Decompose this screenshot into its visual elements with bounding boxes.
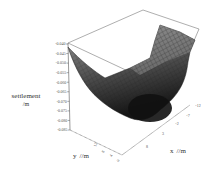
z-tick-label: -0.040: [55, 41, 65, 46]
y-tick-label: 8: [100, 150, 105, 154]
y-tick-label: 4: [108, 154, 113, 158]
y-axis-title: y//m: [73, 152, 89, 160]
z-axis-title: settlement /m: [2, 92, 50, 108]
z-axis-unit: /m: [2, 100, 50, 108]
x-tick-label: 3: [162, 131, 164, 136]
y-tick-label: 0: [115, 159, 120, 163]
z-tick-label: -0.055: [56, 70, 66, 75]
z-tick-label: -0.085: [57, 127, 67, 132]
surface-plot: -0.040-0.045-0.050-0.055-0.060-0.065-0.0…: [0, 0, 219, 170]
z-tick-label: -0.075: [57, 108, 67, 113]
x-tick-label: -12: [195, 103, 200, 108]
x-tick-label: -2: [175, 121, 178, 126]
x-tick-label: -7: [186, 113, 189, 118]
settlement-surface: [68, 25, 195, 122]
z-tick-label: -0.045: [55, 51, 65, 56]
z-tick-label: -0.065: [56, 89, 66, 94]
y-tick-label: 12: [92, 142, 98, 147]
y-axis: 12840: [70, 130, 122, 162]
z-axis-label: settlement: [2, 92, 50, 100]
x-tick-label: 8: [146, 144, 148, 149]
z-tick-label: -0.050: [56, 60, 66, 65]
z-axis: -0.040-0.045-0.050-0.055-0.060-0.065-0.0…: [55, 41, 70, 132]
z-tick-label: -0.060: [56, 80, 66, 85]
z-tick-label: -0.080: [57, 118, 67, 123]
z-tick-label: -0.070: [56, 99, 66, 104]
x-axis-title: x//m: [170, 147, 186, 155]
